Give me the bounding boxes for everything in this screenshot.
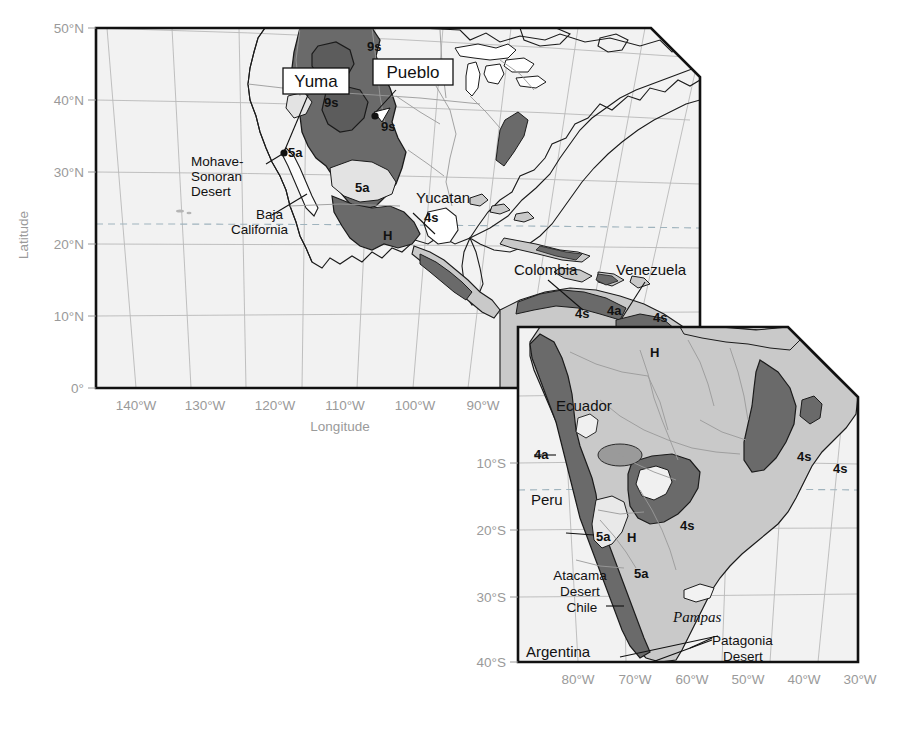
pampas-label: Pampas: [672, 609, 721, 625]
patagonia-line2: Desert: [723, 649, 763, 664]
sa-lon-tick-40w: 40°W: [787, 672, 820, 687]
na-lat-tick-0: 0°: [71, 381, 84, 396]
pueblo-callout[interactable]: Pueblo: [373, 59, 453, 85]
amazon-interior-blob: [598, 444, 642, 466]
venezuela-label: Venezuela: [616, 261, 687, 278]
sa-lon-tick-30w: 30°W: [843, 672, 876, 687]
zone-9s-north: 9s: [367, 39, 381, 54]
patagonia-line1: Patagonia: [712, 633, 773, 648]
na-lon-tick-130w: 130°W: [185, 398, 226, 413]
peru-label: Peru: [531, 491, 563, 508]
mohave-sonoran-line2: Sonoran: [191, 169, 242, 184]
atacama-line1: Atacama: [553, 568, 607, 583]
americas-dryland-map: 50°N 40°N 30°N 20°N 10°N 0° Latitude 140…: [0, 0, 908, 729]
na-lat-tick-50n: 50°N: [54, 21, 84, 36]
yuma-callout[interactable]: Yuma: [283, 68, 349, 94]
sa-lon-tick-60w: 60°W: [675, 672, 708, 687]
na-lon-tick-140w: 140°W: [116, 398, 157, 413]
zone-5a-mexico-north: 5a: [355, 180, 370, 195]
pueblo-callout-label: Pueblo: [387, 63, 440, 82]
zone-9s-colorado: 9s: [381, 119, 395, 134]
sa-longitude-axis: 80°W 70°W 60°W 50°W 40°W 30°W: [561, 672, 876, 687]
na-lon-tick-120w: 120°W: [255, 398, 296, 413]
na-lon-tick-110w: 110°W: [325, 398, 365, 413]
na-lon-tick-90w: 90°W: [466, 398, 499, 413]
na-lat-tick-20n: 20°N: [54, 237, 84, 252]
sa-lat-tick-30s: 30°S: [477, 590, 506, 605]
zone-4s-ne-brazil: 4s: [797, 449, 811, 464]
sa-lon-tick-70w: 70°W: [618, 672, 651, 687]
yuma-callout-label: Yuma: [294, 72, 338, 91]
atacama-line3: Chile: [567, 600, 598, 615]
na-latitude-axis: 50°N 40°N 30°N 20°N 10°N 0° Latitude: [16, 21, 96, 396]
na-lat-tick-10n: 10°N: [54, 309, 84, 324]
zone-5a-atacama: 5a: [634, 566, 649, 581]
na-lat-tick-30n: 30°N: [54, 165, 84, 180]
sa-lon-tick-80w: 80°W: [561, 672, 594, 687]
zone-4s-chaco: 4s: [680, 518, 694, 533]
atacama-line2: Desert: [560, 584, 600, 599]
zone-4a-venezuela-coast: 4a: [607, 303, 622, 318]
zone-5a-peru: 5a: [596, 529, 611, 544]
ecuador-label: Ecuador: [556, 397, 612, 414]
yucatan-label: Yucatan: [416, 189, 470, 206]
argentina-label: Argentina: [526, 643, 591, 660]
colombia-label: Colombia: [514, 261, 578, 278]
zone-4s-venezuela: 4s: [653, 310, 667, 325]
mohave-sonoran-line3: Desert: [191, 184, 231, 199]
mohave-sonoran-line1: Mohave-: [191, 154, 244, 169]
yuma-marker: [280, 149, 287, 156]
zone-4s-colombia: 4s: [575, 306, 589, 321]
sa-lat-tick-10s: 10°S: [477, 456, 506, 471]
sa-latitude-axis: 10°S 20°S 30°S 40°S: [477, 456, 518, 670]
na-longitude-axis-title: Longitude: [310, 419, 369, 434]
zone-4s-yucatan: 4s: [424, 210, 438, 225]
sa-lat-tick-20s: 20°S: [477, 523, 506, 538]
zone-5a-mohave: 5a: [288, 145, 303, 160]
zone-9s-great-basin: 9s: [324, 95, 338, 110]
zone-4s-ne-brazil-coast: 4s: [833, 461, 847, 476]
na-latitude-axis-title: Latitude: [16, 211, 31, 259]
sa-lon-tick-50w: 50°W: [731, 672, 764, 687]
map-figure: 50°N 40°N 30°N 20°N 10°N 0° Latitude 140…: [0, 0, 908, 729]
zone-h-mexico: H: [383, 228, 392, 243]
zone-h-venezuela: H: [650, 345, 659, 360]
na-longitude-axis: 140°W 130°W 120°W 110°W 100°W 90°W Longi…: [116, 398, 500, 434]
baja-california-line1: Baja: [256, 207, 284, 222]
na-lat-tick-40n: 40°N: [54, 93, 84, 108]
pueblo-marker: [371, 112, 378, 119]
na-lon-tick-100w: 100°W: [395, 398, 436, 413]
sa-lat-tick-40s: 40°S: [477, 655, 506, 670]
baja-california-line2: California: [231, 222, 289, 237]
zone-h-andes: H: [627, 530, 636, 545]
